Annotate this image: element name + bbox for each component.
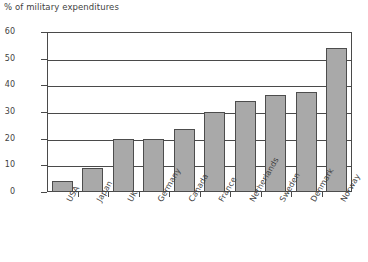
bar-chart: % of military expenditures 0102030405060… <box>0 0 368 262</box>
y-axis-tick-label: 0 <box>0 187 15 196</box>
y-axis-tick-label: 20 <box>0 134 15 143</box>
bars-group <box>47 32 352 192</box>
y-axis-tick-mark <box>41 192 47 193</box>
y-axis-tick-label: 30 <box>0 107 15 116</box>
bar <box>143 139 164 192</box>
bar <box>235 101 256 192</box>
y-axis-tick-label: 40 <box>0 80 15 89</box>
bar <box>174 129 195 192</box>
y-axis-tick-label: 50 <box>0 54 15 63</box>
bar <box>113 139 134 192</box>
chart-title: % of military expenditures <box>4 2 119 12</box>
y-axis-tick-label: 60 <box>0 27 15 36</box>
y-axis-tick-label: 10 <box>0 160 15 169</box>
